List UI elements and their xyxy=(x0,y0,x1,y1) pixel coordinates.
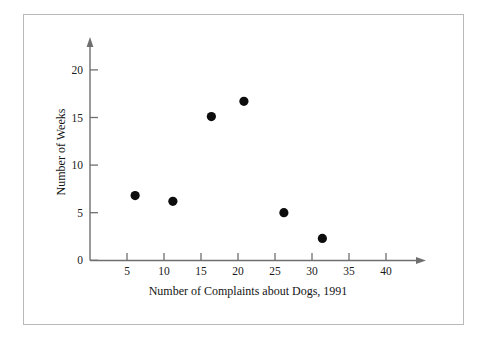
y-tick-label: 10 xyxy=(72,159,84,171)
data-point xyxy=(207,112,216,121)
x-tick-label: 10 xyxy=(158,265,170,277)
x-tick-label: 15 xyxy=(195,265,207,277)
y-tick-label: 20 xyxy=(72,64,84,76)
x-axis-title: Number of Complaints about Dogs, 1991 xyxy=(149,284,348,298)
x-axis xyxy=(90,257,426,264)
x-axis-tick-labels: 5 10 15 20 25 30 35 40 xyxy=(124,265,392,277)
y-tick-label: 15 xyxy=(72,112,84,124)
y-axis-title: Number of Weeks xyxy=(54,108,68,195)
y-tick-label: 0 xyxy=(77,254,83,266)
data-point xyxy=(131,191,140,200)
data-point xyxy=(168,197,177,206)
scatter-plot-page: 20 15 10 5 0 5 10 15 20 25 30 35 40 xyxy=(0,0,485,339)
y-axis-ticks xyxy=(90,70,98,260)
x-axis-ticks xyxy=(127,253,386,261)
scatter-plot-figure: 20 15 10 5 0 5 10 15 20 25 30 35 40 xyxy=(0,0,485,339)
data-point xyxy=(318,234,327,243)
x-tick-label: 5 xyxy=(124,265,130,277)
x-tick-label: 20 xyxy=(232,265,244,277)
x-axis-arrow-icon xyxy=(416,257,426,264)
y-tick-label: 5 xyxy=(77,207,83,219)
data-points-group xyxy=(131,97,327,243)
y-axis-tick-labels: 20 15 10 5 0 xyxy=(72,64,84,266)
x-tick-label: 35 xyxy=(343,265,355,277)
data-point xyxy=(239,97,248,106)
x-tick-label: 30 xyxy=(306,265,318,277)
y-axis-arrow-icon xyxy=(87,37,94,47)
x-tick-label: 40 xyxy=(380,265,392,277)
data-point xyxy=(279,208,288,217)
x-tick-label: 25 xyxy=(269,265,281,277)
